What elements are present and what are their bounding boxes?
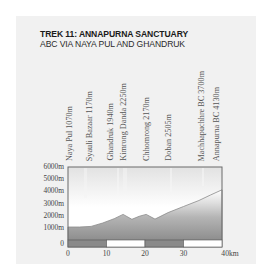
scale-bar-segment [184,240,223,247]
elevation-chart [0,0,272,279]
scale-bar-segment [145,240,184,247]
distance-scale-bar [68,240,222,247]
scale-bar-segment [68,240,107,247]
scale-bar-segment [107,240,146,247]
